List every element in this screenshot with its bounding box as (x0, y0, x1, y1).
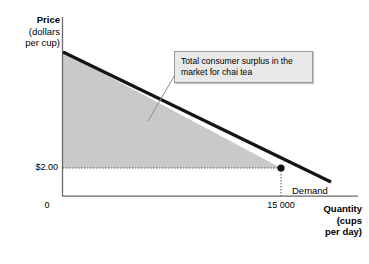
x-axis-tick-label-15000: 15 000 (252, 200, 310, 210)
y-axis-title-sub2: per cup) (25, 37, 60, 48)
chart-canvas: Price (dollars per cup) Quantity (cups p… (0, 0, 369, 264)
x-axis-title-sub1: (cups (337, 215, 362, 226)
x-axis-title-sub2: per day) (325, 226, 362, 237)
y-axis-title-main: Price (37, 14, 60, 25)
demand-curve-label: Demand (292, 185, 328, 196)
y-axis-tick-label-2-00: $2.00 (20, 162, 58, 172)
market-equilibrium-point (277, 164, 284, 171)
x-axis-title-main: Quantity (323, 203, 362, 214)
y-axis-title: Price (dollars per cup) (8, 14, 60, 49)
callout-line-1: Total consumer surplus in (181, 56, 278, 66)
x-axis-tick-label-origin: 0 (38, 200, 56, 210)
y-axis-title-sub1: (dollars (29, 26, 60, 37)
consumer-surplus-callout: Total consumer surplus in the market for… (174, 51, 313, 83)
